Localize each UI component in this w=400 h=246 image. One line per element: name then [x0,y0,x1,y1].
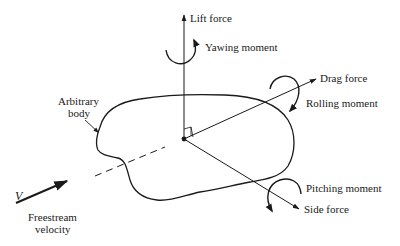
side-force-label: Side force [304,203,349,215]
lift-force-label: Lift force [190,12,232,24]
side-force-arrow [184,139,299,209]
arbitrary-body-label-line2: body [68,107,91,119]
pitching-moment-label: Pitching moment [306,182,381,194]
freestream-label-line2: velocity [35,223,71,235]
yawing-moment-label: Yawing moment [205,41,278,53]
rolling-moment-label: Rolling moment [306,97,378,109]
drag-force-arrow [184,79,316,139]
freestream-axis-dashed [95,147,165,176]
pitching-moment-arrow [268,179,301,211]
freestream-velocity-arrow [16,181,67,203]
arbitrary-body-outline [97,95,294,201]
arbitrary-body-label-line1: Arbitrary [58,95,99,107]
force-moment-diagram: Lift force Yawing moment Drag force Roll… [0,0,400,246]
origin-point [182,137,187,142]
arbitrary-body-pointer [85,120,98,132]
yawing-moment-arrow [166,40,196,64]
freestream-label-line1: Freestream [28,211,77,223]
drag-force-label: Drag force [320,72,367,84]
